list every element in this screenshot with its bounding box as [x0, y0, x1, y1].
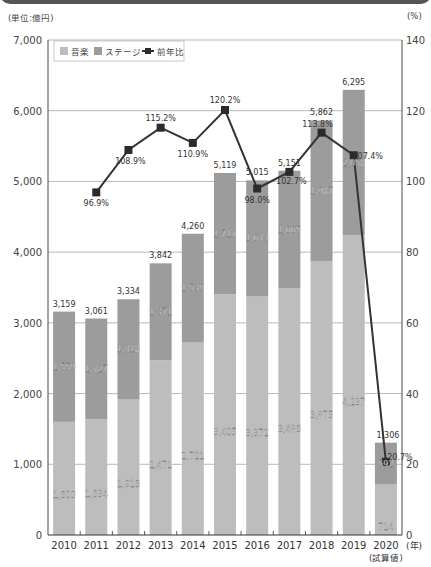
- y-tick-right: 120: [406, 106, 425, 117]
- y-tick-left: 2,000: [13, 389, 42, 400]
- yoy-label: 107.4%: [352, 152, 383, 161]
- y-tick-left: 5,000: [13, 176, 42, 187]
- stage-value-label: 1,665: [278, 226, 301, 235]
- music-value-label: 4,237: [342, 398, 365, 407]
- bar-music: [311, 261, 333, 535]
- total-label: 3,842: [149, 251, 172, 260]
- y-tick-right: 140: [406, 35, 425, 46]
- total-label: 5,862: [310, 108, 333, 117]
- yoy-marker: [253, 185, 261, 193]
- x-tick-label: 2018: [309, 540, 334, 551]
- yoy-label: 98.0%: [244, 196, 270, 205]
- bar-music: [246, 297, 268, 535]
- x-note: (試算値): [369, 553, 403, 563]
- x-tick-label: 2017: [277, 540, 302, 551]
- stage-value-label: 1,371: [149, 308, 172, 317]
- yoy-label: 108.9%: [115, 157, 146, 166]
- x-tick-label: 2019: [341, 540, 366, 551]
- bar-music: [150, 360, 172, 535]
- x-tick-label: 2015: [212, 540, 237, 551]
- music-value-label: 1,634: [85, 490, 108, 499]
- yoy-label: 96.9%: [84, 199, 110, 208]
- music-value-label: 2,471: [149, 461, 172, 470]
- legend-music-label: 音楽: [71, 47, 89, 57]
- legend: 音楽 ステージ 前年比: [54, 41, 184, 61]
- legend-marker-icon: [145, 48, 151, 54]
- y-tick-right: 80: [406, 247, 419, 258]
- x-tick-label: 2020: [373, 540, 398, 551]
- stage-value-label: 1,987: [310, 187, 333, 196]
- yoy-label: 102.7%: [276, 177, 307, 186]
- legend-stage-swatch: [94, 47, 102, 55]
- yoy-marker: [189, 139, 197, 147]
- yoy-marker: [92, 188, 100, 196]
- yoy-label: 20.7%: [387, 453, 413, 462]
- music-value-label: 3,372: [246, 429, 269, 438]
- x-tick-label: 2013: [148, 540, 173, 551]
- y-tick-right: 0: [406, 530, 412, 541]
- music-value-label: 1,600: [53, 491, 76, 500]
- bar-music: [182, 343, 204, 535]
- yoy-marker: [221, 106, 229, 114]
- legend-stage-label: ステージ: [105, 47, 141, 57]
- yoy-label: 115.2%: [145, 114, 176, 123]
- total-label: 3,334: [117, 287, 140, 296]
- y-tick-left: 1,000: [13, 459, 42, 470]
- legend-music-swatch: [60, 47, 68, 55]
- music-value-label: 3,405: [214, 428, 237, 437]
- x-unit: (年): [406, 540, 422, 551]
- total-label: 4,260: [181, 222, 204, 231]
- yoy-marker: [285, 168, 293, 176]
- yoy-marker: [318, 129, 326, 137]
- y-tick-left: 6,000: [13, 106, 42, 117]
- total-label: 3,159: [53, 300, 76, 309]
- bar-music: [53, 422, 75, 535]
- y-tick-right: 60: [406, 318, 419, 329]
- total-label: 5,151: [278, 159, 301, 168]
- yoy-label: 120.2%: [210, 96, 241, 105]
- x-tick-label: 2012: [116, 540, 141, 551]
- y-tick-left: 7,000: [13, 35, 42, 46]
- x-tick-label: 2016: [244, 540, 269, 551]
- legend-yoy-label: 前年比: [157, 47, 184, 57]
- yoy-marker: [124, 146, 132, 154]
- total-label: 3,061: [85, 307, 108, 316]
- stage-value-label: 1,427: [85, 365, 108, 374]
- bar-music: [343, 235, 365, 535]
- yoy-label: 113.8%: [302, 120, 333, 129]
- x-tick-label: 2010: [51, 540, 76, 551]
- music-value-label: 2,721: [181, 452, 204, 461]
- chart: 01,0002,0003,0004,0005,0006,0007,0000204…: [0, 0, 431, 567]
- y-tick-left: 0: [36, 530, 42, 541]
- stage-value-label: 1,539: [181, 284, 204, 293]
- yoy-label: 110.9%: [178, 150, 209, 159]
- music-value-label: 3,486: [278, 425, 301, 434]
- bar-music: [117, 400, 139, 535]
- bar-music: [278, 288, 300, 535]
- total-label: 6,295: [342, 78, 365, 87]
- music-value-label: 1,916: [117, 480, 140, 489]
- stage-value-label: 1,643: [246, 234, 269, 243]
- x-tick-label: 2011: [84, 540, 109, 551]
- y-tick-right: 40: [406, 389, 419, 400]
- y-tick-left: 4,000: [13, 247, 42, 258]
- x-tick-label: 2014: [180, 540, 205, 551]
- total-label: 5,119: [214, 161, 237, 170]
- stage-value-label: 1,714: [214, 230, 237, 239]
- total-label: 1,306: [376, 431, 399, 440]
- stage-value-label: 1,418: [117, 345, 140, 354]
- y-tick-right: 100: [406, 176, 425, 187]
- yoy-marker: [157, 124, 165, 132]
- music-value-label: 3,875: [310, 411, 333, 420]
- y-tick-left: 3,000: [13, 318, 42, 329]
- bar-music: [85, 419, 107, 535]
- total-label: 5,015: [246, 168, 269, 177]
- stage-value-label: 1,559: [53, 363, 76, 372]
- bar-music: [214, 294, 236, 535]
- music-value-label: 714: [378, 523, 393, 532]
